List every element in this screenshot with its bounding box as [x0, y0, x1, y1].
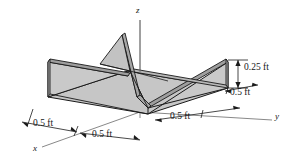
height-arrow-top	[235, 60, 240, 66]
x-axis-line	[42, 112, 140, 147]
y-span-arrow-right	[233, 106, 240, 110]
beam-drawing	[0, 0, 288, 165]
figure-canvas: z y x 0.25 ft 0.5 ft 0.5 ft 0.5 ft 0.5 f…	[0, 0, 288, 165]
x-span-inner-dimension-label: 0.5 ft	[92, 130, 112, 140]
right-flange-end-cap	[226, 59, 228, 88]
y-span-tick	[201, 110, 203, 118]
y-span-dimension-label: 0.5 ft	[170, 112, 190, 122]
left-flange-end-cap	[48, 59, 50, 97]
x-axis-label: x	[33, 144, 37, 153]
right-flange-depth-label: 0.5 ft	[230, 88, 250, 98]
y-axis-label: y	[275, 112, 279, 121]
y-span-arrow-left	[155, 119, 162, 123]
z-axis-label: z	[136, 6, 140, 15]
x-span-outer-dimension-label: 0.5 ft	[33, 119, 53, 129]
height-dimension-label: 0.25 ft	[244, 63, 269, 73]
